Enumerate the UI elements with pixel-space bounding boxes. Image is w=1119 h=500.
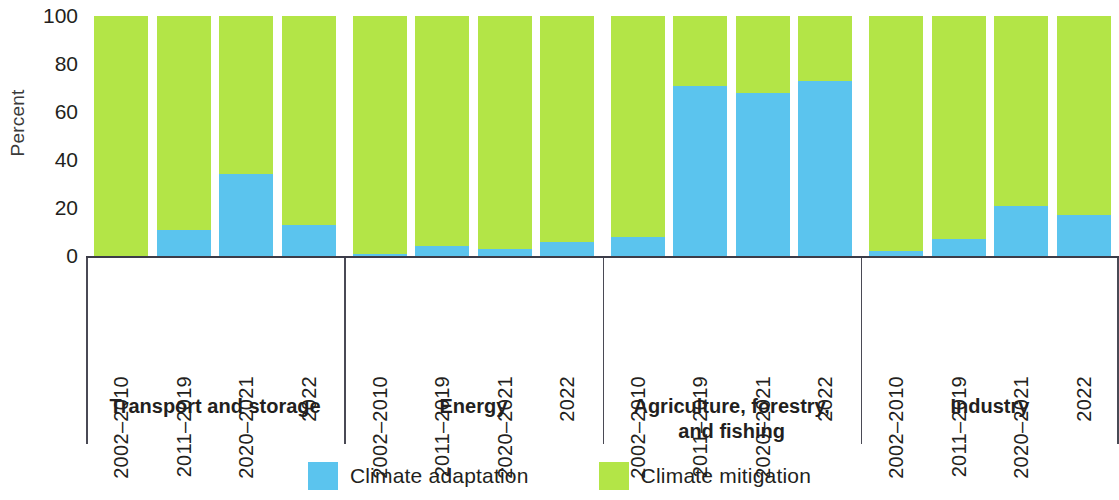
- stacked-bar[interactable]: [611, 16, 665, 256]
- group-title: Transport and storage: [86, 392, 344, 446]
- category-cell: 2011–2019: [932, 258, 986, 383]
- y-axis-ticks: 020406080100: [0, 0, 86, 500]
- bar-segment-adaptation[interactable]: [932, 239, 986, 256]
- category-cell: 2022: [282, 258, 336, 383]
- stacked-bar[interactable]: [736, 16, 790, 256]
- y-axis-tick-label: 20: [55, 196, 78, 220]
- group-title: Industry: [861, 392, 1119, 446]
- bar-segment-mitigation[interactable]: [798, 16, 852, 81]
- stacked-bar[interactable]: [282, 16, 336, 256]
- bar-groups: [86, 16, 1119, 256]
- bar-segment-adaptation[interactable]: [282, 225, 336, 256]
- category-cell: 2002–2010: [94, 258, 148, 383]
- bar-group: [861, 16, 1119, 256]
- bar-segment-mitigation[interactable]: [157, 16, 211, 230]
- bar-segment-adaptation[interactable]: [219, 174, 273, 256]
- group-title-line: Agriculture, forestry,: [603, 394, 861, 419]
- stacked-bar[interactable]: [94, 16, 148, 256]
- stacked-bar[interactable]: [353, 16, 407, 256]
- bar-segment-adaptation[interactable]: [415, 246, 469, 256]
- category-group: 2002–20102011–20192020–20212022: [344, 258, 602, 383]
- stacked-bar[interactable]: [798, 16, 852, 256]
- category-cell: 2020–2021: [736, 258, 790, 383]
- stacked-bar[interactable]: [157, 16, 211, 256]
- stacked-bar[interactable]: [415, 16, 469, 256]
- bar-segment-adaptation[interactable]: [994, 206, 1048, 256]
- y-axis-tick-label: 40: [55, 148, 78, 172]
- bar-segment-mitigation[interactable]: [869, 16, 923, 251]
- chart-legend: Climate adaptationClimate mitigation: [0, 462, 1119, 490]
- bar-segment-mitigation[interactable]: [611, 16, 665, 237]
- bar-segment-mitigation[interactable]: [1057, 16, 1111, 215]
- category-label-groups: 2002–20102011–20192020–202120222002–2010…: [86, 258, 1119, 383]
- bar-segment-mitigation[interactable]: [94, 16, 148, 256]
- stacked-bar-chart: Percent 020406080100 2002–20102011–20192…: [0, 0, 1119, 500]
- bar-segment-mitigation[interactable]: [415, 16, 469, 246]
- category-cell: 2022: [1057, 258, 1111, 383]
- group-title-line: Industry: [861, 394, 1119, 419]
- category-cell: 2020–2021: [478, 258, 532, 383]
- category-group: 2002–20102011–20192020–20212022: [86, 258, 344, 383]
- bar-segment-adaptation[interactable]: [611, 237, 665, 256]
- stacked-bar[interactable]: [994, 16, 1048, 256]
- group-title-line: Transport and storage: [86, 394, 344, 419]
- legend-swatch: [599, 462, 629, 490]
- bar-segment-adaptation[interactable]: [736, 93, 790, 256]
- bar-segment-adaptation[interactable]: [540, 242, 594, 256]
- category-cell: 2020–2021: [994, 258, 1048, 383]
- category-cell: 2011–2019: [157, 258, 211, 383]
- bar-group: [86, 16, 344, 256]
- category-label-area: 2002–20102011–20192020–202120222002–2010…: [86, 258, 1119, 383]
- legend-item[interactable]: Climate mitigation: [599, 462, 812, 490]
- plot-area: [86, 16, 1119, 256]
- bar-segment-mitigation[interactable]: [673, 16, 727, 86]
- bar-segment-adaptation[interactable]: [1057, 215, 1111, 256]
- bar-segment-mitigation[interactable]: [736, 16, 790, 93]
- bar-segment-mitigation[interactable]: [932, 16, 986, 239]
- bar-group: [603, 16, 861, 256]
- category-cell: 2002–2010: [353, 258, 407, 383]
- legend-label: Climate mitigation: [641, 464, 812, 488]
- category-cell: 2022: [540, 258, 594, 383]
- group-title: Energy: [344, 392, 602, 446]
- y-axis-tick-label: 0: [66, 244, 78, 268]
- group-title-line: Energy: [344, 394, 602, 419]
- category-cell: 2020–2021: [219, 258, 273, 383]
- legend-item[interactable]: Climate adaptation: [308, 462, 529, 490]
- bar-segment-mitigation[interactable]: [478, 16, 532, 249]
- stacked-bar[interactable]: [673, 16, 727, 256]
- bar-segment-mitigation[interactable]: [540, 16, 594, 242]
- bar-segment-adaptation[interactable]: [478, 249, 532, 256]
- stacked-bar[interactable]: [932, 16, 986, 256]
- bar-segment-adaptation[interactable]: [673, 86, 727, 256]
- bar-segment-mitigation[interactable]: [282, 16, 336, 225]
- legend-label: Climate adaptation: [350, 464, 529, 488]
- category-cell: 2022: [798, 258, 852, 383]
- category-group: 2002–20102011–20192020–20212022: [603, 258, 861, 383]
- bar-segment-adaptation[interactable]: [798, 81, 852, 256]
- stacked-bar[interactable]: [1057, 16, 1111, 256]
- stacked-bar[interactable]: [478, 16, 532, 256]
- bar-group: [344, 16, 602, 256]
- group-title-line: and fishing: [603, 419, 861, 444]
- group-title: Agriculture, forestry,and fishing: [603, 392, 861, 446]
- category-cell: 2011–2019: [415, 258, 469, 383]
- y-axis-tick-label: 60: [55, 100, 78, 124]
- legend-swatch: [308, 462, 338, 490]
- category-cell: 2002–2010: [611, 258, 665, 383]
- category-cell: 2011–2019: [673, 258, 727, 383]
- y-axis-tick-label: 80: [55, 52, 78, 76]
- stacked-bar[interactable]: [540, 16, 594, 256]
- category-cell: 2002–2010: [869, 258, 923, 383]
- bar-segment-adaptation[interactable]: [157, 230, 211, 256]
- bar-segment-mitigation[interactable]: [353, 16, 407, 254]
- category-group: 2002–20102011–20192020–20212022: [861, 258, 1119, 383]
- stacked-bar[interactable]: [219, 16, 273, 256]
- bar-segment-mitigation[interactable]: [994, 16, 1048, 206]
- bar-segment-mitigation[interactable]: [219, 16, 273, 174]
- stacked-bar[interactable]: [869, 16, 923, 256]
- y-axis-tick-label: 100: [43, 4, 78, 28]
- group-titles: Transport and storageEnergyAgriculture, …: [86, 392, 1119, 446]
